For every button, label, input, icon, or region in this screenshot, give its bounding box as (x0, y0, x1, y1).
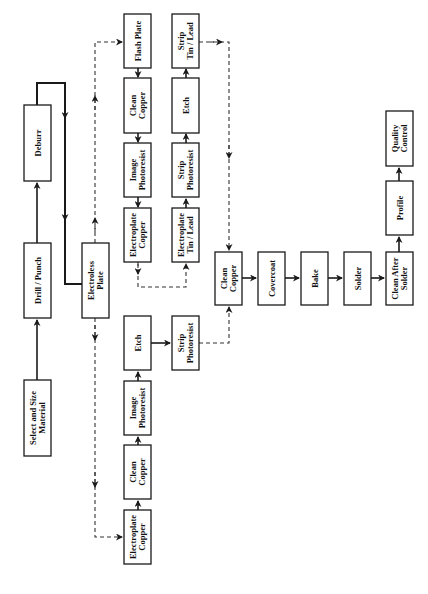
process-step-image2: ImagePhotoresist (124, 381, 151, 435)
process-step-strippr1: StripPhotoresist (172, 143, 199, 197)
step-label: Solder (353, 266, 363, 290)
step-label: Flash Plate (133, 21, 143, 62)
step-label: Deburr (33, 129, 43, 156)
step-label: Drill / Punch (33, 257, 43, 304)
process-step-electroless: ElectrolessPlate (82, 243, 109, 318)
process-step-solder: Solder (344, 252, 371, 305)
process-step-clean3: CleanCopper (215, 252, 242, 305)
process-step-flash: Flash Plate (124, 14, 151, 68)
process-step-deburr: Deburr (24, 105, 51, 181)
process-step-drill: Drill / Punch (24, 243, 51, 318)
process-step-etch2: Etch (124, 316, 151, 370)
process-nodes: Select and SizeMaterialDrill / PunchDebu… (24, 14, 413, 564)
process-step-eplcu2: ElectroplateCopper (124, 510, 151, 564)
dashed-electroless-to-eplcu (95, 318, 122, 537)
process-step-clean1: CleanCopper (124, 78, 151, 133)
step-label: CleanCopper (219, 265, 239, 293)
step-label: Etch (133, 334, 143, 351)
step-label: CleanCopper (128, 92, 148, 120)
process-step-profile: Profile (386, 181, 413, 235)
dashed-striptl-to-clean (199, 42, 229, 250)
step-label: QualityControl (390, 124, 410, 153)
process-step-etch1: Etch (172, 78, 199, 133)
step-label: Bake (310, 269, 320, 288)
process-step-covercoat: Covercoat (258, 252, 285, 305)
process-step-select: Select and SizeMaterial (24, 380, 51, 456)
dashed-strippr-to-clean (199, 307, 229, 343)
process-step-strippr2: StripPhotoresist (172, 316, 199, 370)
process-step-clean2: CleanCopper (124, 445, 151, 499)
dashed-electroless-to-flash (95, 42, 122, 243)
process-flow-diagram: Select and SizeMaterialDrill / PunchDebu… (0, 0, 428, 594)
process-step-epltl: ElectroplateTin / Lead (172, 208, 199, 262)
step-label: Profile (395, 196, 405, 221)
dashed-eplcu-to-epltl (138, 262, 186, 287)
process-step-qc: QualityControl (386, 111, 413, 166)
process-step-striptl: StripTin / Lead (172, 14, 199, 68)
step-label: Covercoat (267, 260, 277, 297)
process-step-eplcu1: ElectroplateCopper (124, 208, 151, 262)
step-label: ElectroplateTin / Lead (176, 213, 196, 257)
process-step-bake: Bake (301, 252, 328, 305)
step-label: Etch (181, 97, 191, 114)
process-step-image1: ImagePhotoresist (124, 143, 151, 197)
step-label: CleanCopper (128, 458, 148, 486)
process-step-cas: Clean AfterSolder (386, 252, 413, 305)
